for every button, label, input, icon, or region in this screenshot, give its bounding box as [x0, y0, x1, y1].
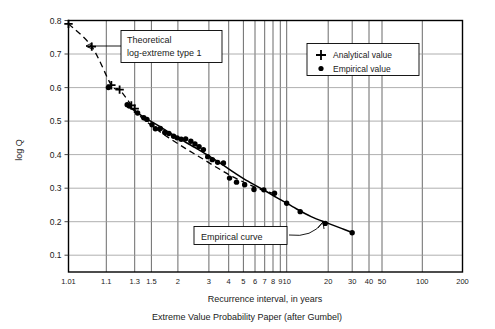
empirical-point	[261, 187, 266, 192]
legend-label-empirical: Empirical value	[333, 64, 391, 74]
xtick-label-40: 40	[365, 277, 373, 286]
y-axis-label: log Q	[14, 139, 24, 161]
empirical-point	[272, 191, 277, 196]
xtick-label-4: 4	[227, 277, 231, 286]
gumbel-probability-plot: 0.80.70.60.50.40.30.20.1 1.011.11.31.523…	[0, 0, 495, 329]
theoretical-callout-line-1: Theoretical	[127, 35, 172, 45]
empirical-point	[227, 175, 232, 180]
empirical-point	[349, 230, 354, 235]
ytick-label-0.7: 0.7	[50, 49, 62, 59]
xtick-label-100: 100	[416, 277, 429, 286]
empirical-point	[135, 110, 140, 115]
x-axis-label: Recurrence interval, in years	[208, 294, 323, 304]
ytick-label-0.1: 0.1	[50, 250, 62, 260]
empirical-point	[144, 117, 149, 122]
xtick-label-50: 50	[378, 277, 386, 286]
empirical-point	[284, 201, 289, 206]
xtick-label-1.3: 1.3	[129, 277, 139, 286]
xtick-label-7: 7	[263, 277, 267, 286]
xtick-label-1.01: 1.01	[61, 277, 76, 286]
chart-figure: 0.80.70.60.50.40.30.20.1 1.011.11.31.523…	[0, 0, 495, 329]
empirical-point	[210, 157, 215, 162]
xtick-label-1.5: 1.5	[146, 277, 156, 286]
xtick-label-200: 200	[456, 277, 469, 286]
ytick-label-0.6: 0.6	[50, 83, 62, 93]
empirical-point	[221, 160, 226, 165]
ytick-label-0.4: 0.4	[50, 150, 62, 160]
ytick-label-0.2: 0.2	[50, 217, 62, 227]
legend-label-analytical: Analytical value	[333, 50, 392, 60]
empirical-point	[298, 209, 303, 214]
empirical-point	[158, 126, 163, 131]
empirical-point	[215, 160, 220, 165]
xtick-label-5: 5	[241, 277, 245, 286]
figure-caption: Extreme Value Probability Paper (after G…	[152, 312, 342, 322]
empirical-point	[234, 179, 239, 184]
xtick-label-8: 8	[271, 277, 275, 286]
empirical-callout-label: Empirical curve	[201, 232, 263, 242]
chart-legend: Analytical value Empirical value	[307, 44, 419, 76]
empirical-point	[183, 136, 188, 141]
theoretical-callout-line-2: log-extreme type 1	[127, 48, 202, 58]
xtick-label-20: 20	[324, 277, 332, 286]
empirical-point	[242, 182, 247, 187]
empirical-point	[153, 126, 158, 131]
ytick-label-0.3: 0.3	[50, 183, 62, 193]
xtick-label-10: 10	[283, 277, 291, 286]
empirical-point	[166, 131, 171, 136]
empirical-point	[205, 154, 210, 159]
xtick-label-6: 6	[253, 277, 257, 286]
ytick-label-0.8: 0.8	[50, 16, 62, 26]
legend-marker-dot-icon	[318, 66, 323, 71]
empirical-point	[201, 147, 206, 152]
xtick-label-30: 30	[348, 277, 356, 286]
xtick-label-1.1: 1.1	[101, 277, 111, 286]
empirical-point	[251, 187, 256, 192]
empirical-point	[196, 144, 201, 149]
xtick-label-2: 2	[176, 277, 180, 286]
ytick-label-0.5: 0.5	[50, 116, 62, 126]
xtick-label-3: 3	[207, 277, 211, 286]
